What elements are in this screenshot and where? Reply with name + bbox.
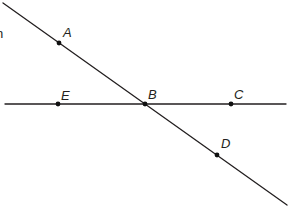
point-E-label: E (61, 88, 70, 103)
point-A-label: A (62, 25, 72, 40)
point-C-label: C (234, 87, 244, 102)
point-E-dot (56, 102, 61, 107)
point-A-dot (57, 41, 62, 46)
point-B-dot (143, 102, 148, 107)
geometry-diagram: n A E B C D (0, 0, 291, 207)
point-A: A (57, 25, 72, 45)
point-D-dot (215, 153, 220, 158)
edge-text-fragment: n (0, 26, 3, 41)
point-D: D (215, 136, 231, 157)
point-D-label: D (221, 136, 230, 151)
point-C-dot (229, 102, 234, 107)
point-B-label: B (148, 87, 157, 102)
